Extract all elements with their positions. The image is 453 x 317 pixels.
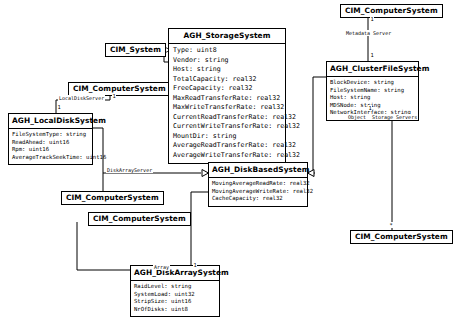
class-name: AGH_DiskBasedSystem (209, 163, 307, 178)
class-box-agh-diskarraysystem[interactable]: AGH_DiskArraySystem RaidLevel: string Sy… (130, 265, 220, 317)
class-name: AGH_ClusterFileSystem (327, 62, 418, 77)
class-box-agh-localdisksystem[interactable]: AGH_LocalDiskSystem FileSystemType: stri… (8, 113, 93, 165)
class-box-cim-system[interactable]: CIM_System (105, 43, 166, 57)
attribute: AverageTrackSeekTime: uint16 (12, 154, 90, 162)
association-label-object-prefix: Object (347, 114, 367, 120)
attribute: Host: string (330, 94, 416, 102)
class-box-cim-computersystem-oss[interactable]: CIM_ComputerSystem (350, 230, 453, 244)
attribute: FileSystemName: string (330, 87, 416, 95)
uml-diagram-canvas: CIM_System CIM_ComputerSystem CIM_Comput… (0, 0, 453, 317)
class-name: AGH_DiskArraySystem (131, 266, 219, 281)
attribute: RaidLevel: string (134, 283, 217, 291)
class-box-cim-computersystem-diskarrayserver[interactable]: CIM_ComputerSystem (61, 191, 164, 205)
attribute: AverageReadTransferRate: real32 (173, 141, 282, 151)
multiplicity-array-target: 1 (193, 262, 197, 268)
attribute: MountDir: string (173, 132, 282, 142)
class-name: CIM_ComputerSystem (93, 214, 186, 223)
class-box-cim-computersystem-array[interactable]: CIM_ComputerSystem (88, 212, 191, 226)
multiplicity-localdiskserver-target: 1 (57, 104, 61, 110)
attribute: Vendor: string (173, 56, 282, 66)
class-name: AGH_LocalDiskSystem (9, 114, 92, 129)
association-array (77, 222, 130, 270)
attribute: StripSize: uint16 (134, 298, 217, 306)
attribute: Host: string (173, 65, 282, 75)
attribute: Rpm: uint16 (12, 146, 90, 154)
association-label-objectstorageservers: Storage Servers (371, 114, 418, 120)
class-name: CIM_ComputerSystem (66, 193, 159, 202)
attribute-list: MovingAverageReadRate: real32 MovingAver… (209, 178, 307, 206)
attribute: MovingAverageWriteRate: real32 (212, 188, 305, 196)
multiplicity-oss-source: 1 (368, 105, 372, 111)
attribute: FreeCapacity: real32 (173, 84, 282, 94)
attribute-list: Type: uint8 Vendor: string Host: string … (169, 44, 285, 163)
attribute: BlockDevice: string (330, 79, 416, 87)
association-label-diskarrayserver: DiskArrayServer (106, 167, 153, 173)
attribute: ReadAhead: uint16 (12, 139, 90, 147)
association-label-localdiskserver: LocalDiskServer (58, 95, 105, 101)
attribute: MovingAverageReadRate: real32 (212, 180, 305, 188)
class-box-cim-computersystem-localdisk[interactable]: CIM_ComputerSystem (68, 82, 171, 96)
association-label-array: Array (153, 264, 170, 270)
class-name: CIM_ComputerSystem (345, 6, 438, 15)
class-name: CIM_ComputerSystem (73, 84, 166, 93)
attribute: MDSNode: string (330, 102, 416, 110)
attribute: CacheCapacity: real32 (212, 195, 305, 203)
attribute: SystemLoad: uint32 (134, 291, 217, 299)
attribute-list: FileSystemType: string ReadAhead: uint16… (9, 129, 92, 164)
class-name: CIM_ComputerSystem (355, 232, 448, 241)
multiplicity-metadataserver-target: 1 (370, 52, 374, 58)
attribute: FileSystemType: string (12, 131, 90, 139)
attribute: MaxReadTransferRate: real32 (173, 94, 282, 104)
attribute: CurrentReadTransferRate: real32 (173, 113, 282, 123)
multiplicity-metadataserver-source: 1 (370, 16, 374, 22)
multiplicity-oss-target: * (389, 222, 393, 228)
class-box-agh-clusterfilesystem[interactable]: AGH_ClusterFileSystem BlockDevice: strin… (326, 61, 419, 121)
attribute: CurrentWriteTransferRate: real32 (173, 122, 282, 132)
attribute: NrOfDisks: uint8 (134, 306, 217, 314)
attribute-list: RaidLevel: string SystemLoad: uint32 Str… (131, 281, 219, 316)
generalization-clusterfs-to-diskbased (308, 77, 327, 177)
multiplicity-localdiskserver-source: 1 (112, 93, 116, 99)
class-name: CIM_System (110, 45, 161, 54)
class-box-agh-storagesystem[interactable]: AGH_StorageSystem Type: uint8 Vendor: st… (168, 28, 286, 164)
attribute: TotalCapacity: real32 (173, 75, 282, 85)
association-label-metadataserver: Metadata Server (345, 30, 392, 36)
class-name: AGH_StorageSystem (169, 29, 285, 44)
class-box-cim-computersystem-metadata[interactable]: CIM_ComputerSystem (340, 4, 443, 18)
attribute: Type: uint8 (173, 46, 282, 56)
class-box-agh-diskbasedsystem[interactable]: AGH_DiskBasedSystem MovingAverageReadRat… (208, 162, 308, 207)
attribute: MaxWriteTransferRate: real32 (173, 103, 282, 113)
attribute: AverageWriteTransferRate: real32 (173, 151, 282, 161)
